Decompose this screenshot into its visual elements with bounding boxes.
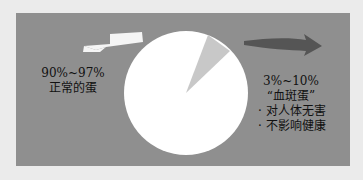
right-arrow-icon [244,34,322,56]
bullet-harmless: · 对人体无害 [250,104,332,119]
normal-name: 正常的蛋 [49,81,97,95]
normal-range: 90%~97% [41,66,104,80]
blood-spot-name: “血斑蛋” [267,89,315,103]
blood-spot-range: 3%~10% [263,74,319,88]
normal-egg-label: 90%~97% 正常的蛋 [38,66,108,96]
bullet-no-health-effect: · 不影响健康 [250,119,332,134]
blood-spot-label: 3%~10% “血斑蛋” · 对人体无害 · 不影响健康 [250,74,332,134]
left-arrow-icon [84,32,143,50]
